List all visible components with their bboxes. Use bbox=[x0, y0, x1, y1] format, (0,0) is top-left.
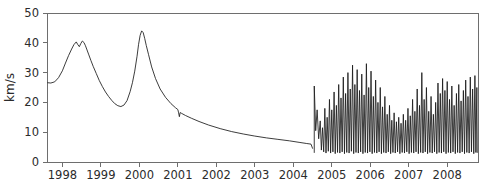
x-tick-label-2001: 2001 bbox=[163, 168, 192, 182]
x-axis-tick-labels: 1998199920002001200220032004200520062007… bbox=[48, 168, 462, 182]
x-tick-label-2000: 2000 bbox=[125, 168, 154, 182]
y-tick-label-30: 30 bbox=[24, 66, 39, 80]
y-tick-label-10: 10 bbox=[24, 125, 39, 139]
velocity-time-chart: 1998199920002001200220032004200520062007… bbox=[0, 0, 487, 193]
x-tick-label-2006: 2006 bbox=[356, 168, 385, 182]
chart-background bbox=[0, 0, 487, 193]
x-tick-label-2004: 2004 bbox=[279, 168, 308, 182]
x-tick-label-2007: 2007 bbox=[394, 168, 423, 182]
x-tick-label-1998: 1998 bbox=[48, 168, 77, 182]
y-tick-label-50: 50 bbox=[24, 6, 39, 20]
chart-container: 1998199920002001200220032004200520062007… bbox=[0, 0, 487, 193]
x-tick-label-1999: 1999 bbox=[86, 168, 115, 182]
x-tick-label-2002: 2002 bbox=[202, 168, 231, 182]
x-tick-label-2003: 2003 bbox=[240, 168, 269, 182]
y-tick-label-0: 0 bbox=[32, 155, 39, 169]
y-tick-label-40: 40 bbox=[24, 36, 39, 50]
y-tick-label-20: 20 bbox=[24, 95, 39, 109]
x-tick-label-2008: 2008 bbox=[433, 168, 462, 182]
y-axis-title: km/s bbox=[3, 73, 17, 102]
x-tick-label-2005: 2005 bbox=[317, 168, 346, 182]
